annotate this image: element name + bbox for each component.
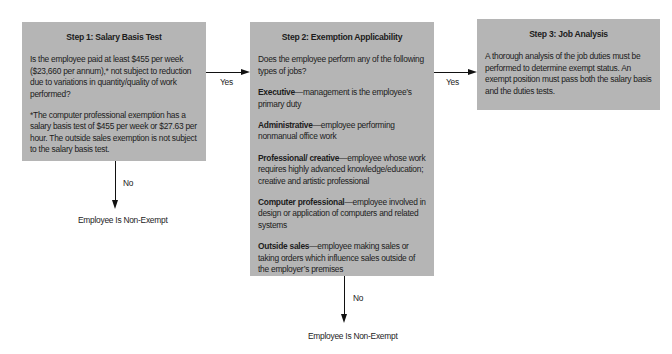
arrow-step1-to-step2-line — [206, 72, 242, 73]
arrowhead-right-icon — [468, 69, 477, 75]
arrowhead-down-icon — [112, 200, 118, 209]
step2-box: Step 2: Exemption Applicability Does the… — [250, 22, 434, 276]
edge-label-yes: Yes — [220, 77, 233, 87]
job-type-outside-sales: Outside sales—employee making sales or t… — [258, 241, 426, 275]
job-type-term: Professional/ creative — [258, 153, 339, 163]
job-type-computer-professional: Computer professional—employee involved … — [258, 197, 426, 231]
step1-title: Step 1: Salary Basis Test — [30, 32, 198, 43]
outcome-non-exempt: Employee Is Non-Exempt — [78, 215, 167, 225]
step2-intro: Does the employee perform any of the fol… — [258, 54, 426, 77]
job-type-term: Computer professional — [258, 197, 344, 207]
arrow-step2-to-step3-line — [434, 72, 469, 73]
step2-title: Step 2: Exemption Applicability — [258, 32, 426, 43]
step3-description: A thorough analysis of the job duties mu… — [485, 51, 652, 97]
job-type-term: Outside sales — [258, 241, 309, 251]
outcome-non-exempt: Employee Is Non-Exempt — [308, 331, 397, 341]
job-type-term: Administrative — [258, 120, 313, 130]
edge-label-no: No — [123, 178, 133, 188]
step3-title: Step 3: Job Analysis — [485, 29, 652, 40]
arrow-step2-to-outcome-line — [344, 276, 345, 315]
step1-question: Is the employee paid at least $455 per w… — [30, 54, 198, 100]
step1-footnote: *The computer professional exemption has… — [30, 110, 198, 156]
arrow-step1-to-outcome-line — [115, 161, 116, 201]
step3-box: Step 3: Job Analysis A thorough analysis… — [477, 19, 660, 110]
edge-label-yes: Yes — [446, 77, 459, 87]
job-type-professional-creative: Professional/ creative—employee whose wo… — [258, 153, 426, 187]
job-type-administrative: Administrative—employee performing nonma… — [258, 120, 426, 143]
arrowhead-right-icon — [241, 69, 250, 75]
job-type-term: Executive — [258, 87, 295, 97]
job-type-executive: Executive—management is the employee’s p… — [258, 87, 426, 110]
arrowhead-down-icon — [341, 314, 347, 323]
edge-label-no: No — [353, 293, 363, 303]
step1-box: Step 1: Salary Basis Test Is the employe… — [22, 22, 206, 161]
